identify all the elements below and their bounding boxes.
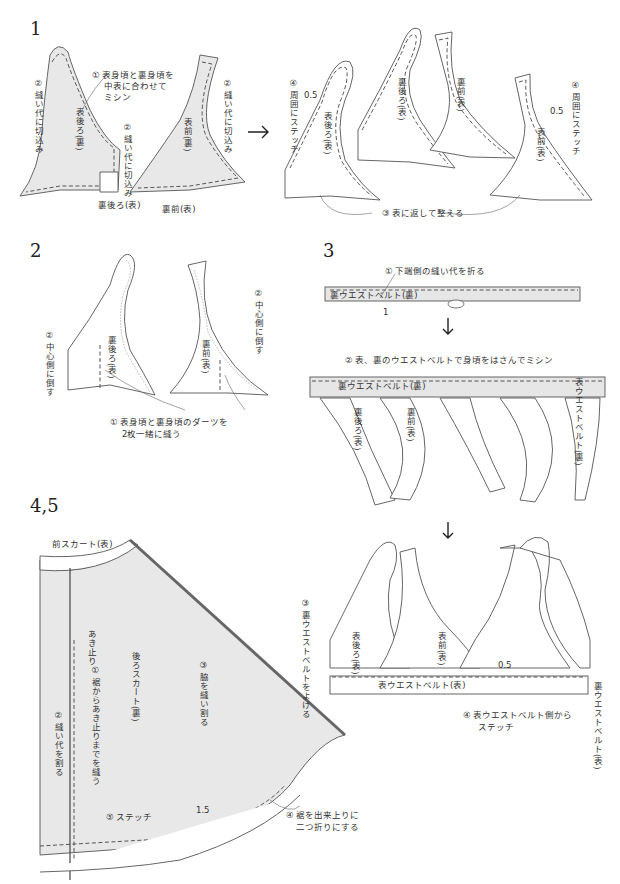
- step1-turned-pieces: [285, 28, 592, 200]
- final-arrow-icon: [443, 522, 453, 538]
- final-top: [330, 537, 590, 694]
- diagram-canvas: [0, 0, 620, 884]
- step45-skirt: [40, 540, 345, 880]
- step1-front-piece: [130, 55, 245, 192]
- step3-assembly: [310, 377, 605, 505]
- step1-back-piece: [20, 47, 120, 196]
- step1-arrow-icon: [248, 126, 268, 138]
- step3-belt: [325, 287, 580, 308]
- step3-arrow-icon: [443, 318, 453, 334]
- step2-pieces: [68, 254, 268, 395]
